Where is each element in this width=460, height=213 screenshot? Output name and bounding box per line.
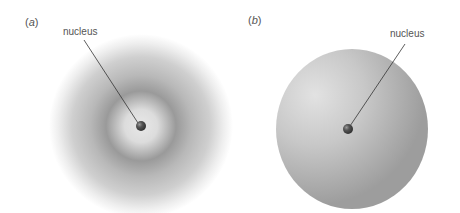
panel-a-label: (a) (25, 16, 38, 28)
nucleus-b (343, 124, 353, 134)
nucleus-label-b: nucleus (390, 28, 424, 39)
panel-b: (b) nucleus (248, 14, 428, 209)
atom-diagram: (a) nucleus (b) nucleus (0, 0, 460, 213)
nucleus-a (136, 121, 146, 131)
panel-a: (a) nucleus (25, 16, 233, 213)
nucleus-label-a: nucleus (63, 26, 97, 37)
panel-b-label: (b) (248, 14, 261, 26)
